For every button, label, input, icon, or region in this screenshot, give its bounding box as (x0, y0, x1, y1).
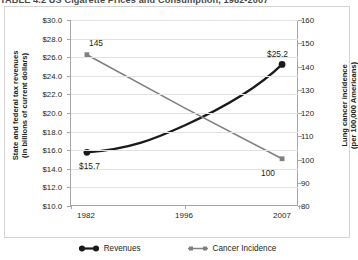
x-axis-tick (71, 205, 72, 209)
gridline (71, 113, 298, 114)
left-axis-tick-label: $12.0 (42, 183, 62, 192)
legend-marker-circle-icon (78, 244, 100, 253)
left-axis-tick (67, 76, 71, 77)
left-axis-tick (67, 187, 71, 188)
right-axis-tick (298, 90, 302, 91)
left-axis-tick-label: $16.0 (42, 146, 62, 155)
legend-item[interactable]: Cancer Incidence (187, 244, 277, 253)
legend-label: Cancer Incidence (213, 244, 277, 253)
right-axis-tick-label: 100 (301, 155, 314, 164)
left-axis-tick (67, 94, 71, 95)
right-axis-tick (298, 183, 302, 184)
left-axis-tick-label: $22.0 (42, 90, 62, 99)
legend-marker-square-icon (187, 244, 209, 253)
right-axis-tick (298, 160, 302, 161)
left-axis-tick-label: $18.0 (42, 127, 62, 136)
left-axis-tick-label: $24.0 (42, 71, 62, 80)
x-axis-tick (185, 205, 186, 209)
legend-label: Revenues (104, 244, 141, 253)
right-axis-tick-label: 160 (301, 16, 314, 25)
left-axis-tick (67, 150, 71, 151)
right-axis-tick-label: 150 (301, 39, 314, 48)
left-axis-tick-label: $26.0 (42, 53, 62, 62)
cancer-incidence-line (87, 55, 282, 159)
x-axis-tick-labels: 198219962007 (70, 211, 298, 225)
gridline (71, 132, 298, 133)
x-axis-tick-label: 2007 (273, 211, 291, 220)
right-axis-tick-label: 140 (301, 62, 314, 71)
chart-legend: RevenuesCancer Incidence (4, 238, 350, 258)
right-axis-tick (298, 136, 302, 137)
left-axis-tick (67, 169, 71, 170)
right-axis-tick-label: 120 (301, 109, 314, 118)
right-axis-tick-label: 80 (301, 202, 310, 211)
left-axis-tick (67, 57, 71, 58)
revenues-point (279, 61, 286, 68)
data-point-label-revenues-end: $25.2 (267, 49, 288, 59)
gridline (71, 94, 298, 95)
x-axis-tick-label: 1982 (77, 211, 95, 220)
right-axis-tick-label: 90 (301, 178, 310, 187)
x-axis-tick (299, 205, 300, 209)
right-axis-tick-label: 130 (301, 85, 314, 94)
right-axis-tick-label: 110 (301, 132, 313, 141)
right-axis-tick (298, 113, 302, 114)
left-axis-tick-label: $14.0 (42, 164, 62, 173)
left-axis-title: State and federal tax revenues (in billi… (11, 39, 30, 171)
gridline (71, 57, 298, 58)
left-axis-tick (67, 132, 71, 133)
right-axis-tick (298, 43, 302, 44)
left-axis-tick-label: $30.0 (42, 16, 62, 25)
left-axis-tick-label: $10.0 (42, 202, 62, 211)
gridline (71, 150, 298, 151)
gridline (71, 187, 298, 188)
left-axis-tick (67, 39, 71, 40)
data-point-label-revenues-start: $15.7 (79, 161, 100, 171)
left-axis-tick (67, 20, 71, 21)
legend-item[interactable]: Revenues (78, 244, 141, 253)
plot-area: 145$25.2$15.7100 (70, 20, 298, 206)
left-axis-tick (67, 113, 71, 114)
x-axis-tick-label: 1996 (175, 211, 193, 220)
gridline (71, 76, 298, 77)
right-axis-title: Lung cancer incidence (per 100,000 Ameri… (340, 39, 358, 171)
right-axis-tick (298, 67, 302, 68)
data-point-label-incidence-end: 100 (261, 168, 275, 178)
left-axis-tick-label: $28.0 (42, 34, 62, 43)
data-point-label-incidence-start: 145 (89, 38, 103, 48)
right-axis-tick (298, 20, 302, 21)
gridline (71, 39, 298, 40)
left-axis-tick-label: $20.0 (42, 109, 62, 118)
cancer-incidence-point (280, 156, 285, 161)
gridline (71, 20, 298, 21)
